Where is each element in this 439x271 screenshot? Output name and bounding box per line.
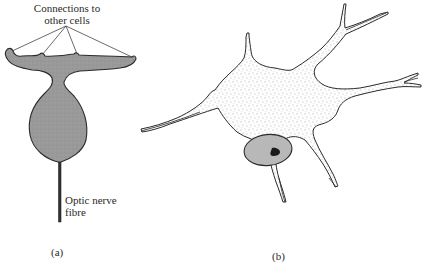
optic-nerve-fibre (59, 160, 62, 222)
cell-a-body (5, 48, 136, 162)
panel-b-label: (b) (272, 250, 285, 262)
connections-label-line1: Connections to (31, 2, 103, 14)
connections-label-line2: other cells (31, 14, 103, 26)
optic-nerve-label-line1: Optic nerve (65, 194, 117, 206)
panel-a-label: (a) (51, 246, 63, 258)
connection-lines (10, 26, 134, 58)
optic-nerve-label: Optic nerve fibre (65, 194, 117, 218)
optic-nerve-label-line2: fibre (65, 206, 117, 218)
cell-b-body (141, 4, 421, 202)
connections-label: Connections to other cells (31, 2, 103, 26)
cell-a (5, 26, 136, 222)
cell-b (141, 4, 421, 202)
neuron-diagram (0, 0, 439, 271)
